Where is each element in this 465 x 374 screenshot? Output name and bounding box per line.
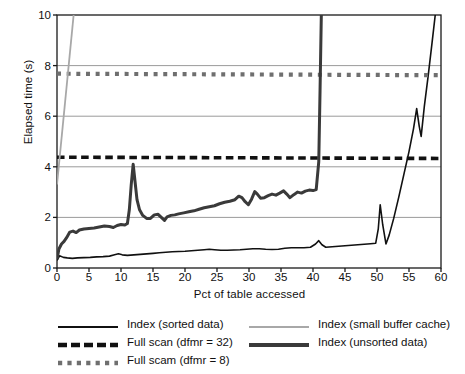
- series-line-5: [57, 15, 321, 259]
- legend-line-icon: [57, 337, 119, 349]
- legend-column-right: Index (small buffer cache)Index (unsorte…: [248, 316, 450, 352]
- legend-label: Index (small buffer cache): [318, 318, 450, 331]
- series-line-2: [57, 157, 441, 158]
- legend-swatch: [57, 357, 119, 369]
- legend-item[interactable]: Index (unsorted data): [248, 334, 450, 351]
- legend-swatch: [248, 339, 310, 351]
- legend-item[interactable]: Full scan (dfmr = 32): [57, 334, 233, 351]
- legend-line-icon: [57, 355, 119, 367]
- legend-label: Full scan (dfmr = 32): [127, 336, 233, 349]
- series-line-4: [57, 15, 74, 185]
- legend-item[interactable]: Index (sorted data): [57, 316, 233, 333]
- legend-label: Index (unsorted data): [318, 336, 427, 349]
- legend-item[interactable]: Index (small buffer cache): [248, 316, 450, 333]
- legend-label: Full scam (dfmr = 8): [127, 354, 230, 367]
- legend-line-icon: [248, 319, 310, 331]
- series-line-3: [57, 74, 441, 76]
- chart-legend: Index (sorted data)Full scan (dfmr = 32)…: [0, 316, 465, 374]
- chart-figure: Elapsed time (s) Pct of table accessed 0…: [0, 0, 465, 374]
- legend-label: Index (sorted data): [127, 318, 224, 331]
- legend-line-icon: [57, 319, 119, 331]
- legend-item[interactable]: Full scam (dfmr = 8): [57, 352, 233, 369]
- legend-swatch: [57, 321, 119, 333]
- series-line-1: [57, 15, 435, 260]
- legend-column-left: Index (sorted data)Full scan (dfmr = 32)…: [57, 316, 233, 370]
- legend-line-icon: [248, 337, 310, 349]
- legend-swatch: [57, 339, 119, 351]
- legend-swatch: [248, 321, 310, 333]
